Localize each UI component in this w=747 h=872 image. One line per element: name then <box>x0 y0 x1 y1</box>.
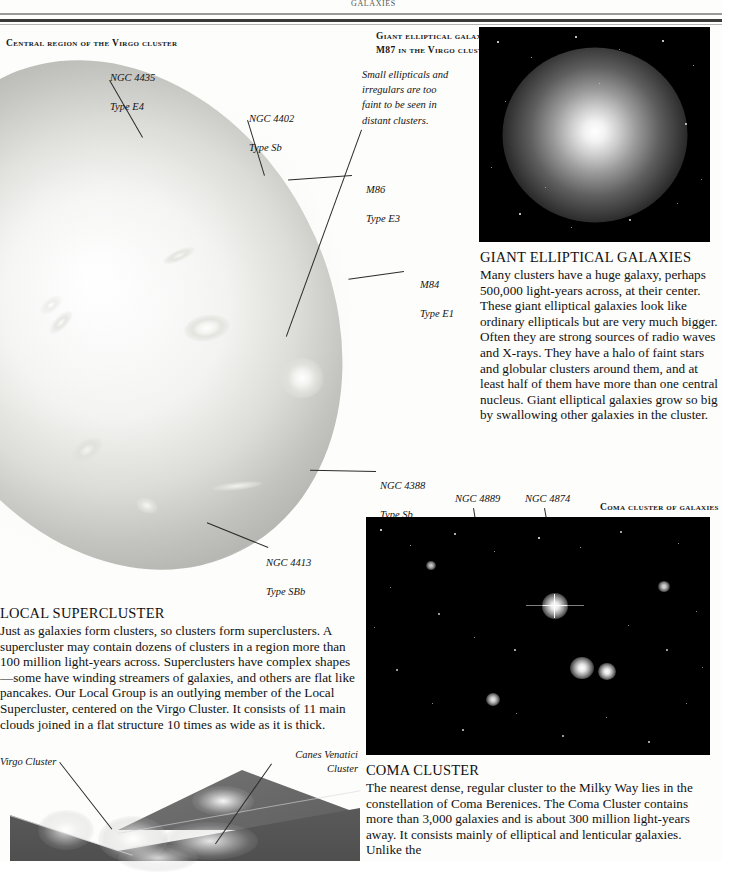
label-ngc4435: NGC 4435 Type E4 <box>110 57 155 114</box>
label-ngc4435-type: Type E4 <box>110 101 144 112</box>
local-supercluster-title: LOCAL SUPERCLUSTER <box>0 605 358 622</box>
giant-elliptical-title: GIANT ELLIPTICAL GALAXIES <box>480 249 720 266</box>
label-ngc4402-name: NGC 4402 <box>249 113 294 124</box>
virgo-plate-caption: Central region of the Virgo cluster <box>6 37 177 51</box>
cube-clump-low <box>118 844 198 872</box>
cube-clump-center <box>38 810 94 850</box>
label-m84-name: M84 <box>420 279 439 290</box>
label-m84-type: Type E1 <box>420 308 454 319</box>
m87-galaxy-glow <box>502 47 687 222</box>
m87-caption-line1: Giant elliptical galaxy <box>376 31 487 41</box>
coma-cluster-section: COMA CLUSTER The nearest dense, regular … <box>366 762 718 858</box>
label-ngc4874-name: NGC 4874 <box>525 493 570 504</box>
coma-photo <box>366 517 710 755</box>
label-ngc4388-name: NGC 4388 <box>380 480 425 491</box>
m87-plate-caption: Giant elliptical galaxy M87 in the Virgo… <box>376 29 493 58</box>
note-small-ellipticals: Small ellipticals and irregulars are too… <box>362 67 482 128</box>
virgo-cluster-plate <box>0 40 380 590</box>
header-rule-thick <box>0 19 740 22</box>
label-m86-type: Type E3 <box>366 213 400 224</box>
label-ngc4402-type: Type Sb <box>249 142 282 153</box>
galaxy-m84 <box>280 358 324 398</box>
label-ngc4388: NGC 4388 Type Sb <box>380 465 425 522</box>
supercluster-cube-diagram <box>10 770 360 861</box>
local-supercluster-section: LOCAL SUPERCLUSTER Just as galaxies form… <box>0 605 358 732</box>
label-ngc4889-name: NGC 4889 <box>455 493 500 504</box>
label-ngc4413-name: NGC 4413 <box>266 557 311 568</box>
coma-plate-caption: Coma cluster of galaxies <box>600 501 719 515</box>
label-ngc4435-name: NGC 4435 <box>110 72 155 83</box>
running-head: GALAXIES <box>0 0 747 8</box>
label-m84: M84 Type E1 <box>420 264 454 321</box>
label-virgo-cluster: Virgo Cluster <box>0 755 56 769</box>
label-m86-name: M86 <box>366 184 385 195</box>
m87-caption-line2: M87 in the Virgo cluster <box>376 45 493 55</box>
m87-photo <box>479 27 710 242</box>
local-supercluster-body: Just as galaxies form clusters, so clust… <box>0 623 358 732</box>
label-m86: M86 Type E3 <box>366 169 400 226</box>
label-ngc4402: NGC 4402 Type Sb <box>249 98 294 155</box>
header-rule-top <box>0 13 740 15</box>
header-rule-thin <box>0 24 740 25</box>
giant-elliptical-section: GIANT ELLIPTICAL GALAXIES Many clusters … <box>480 249 720 423</box>
right-margin-bleed <box>722 0 747 861</box>
label-ngc4413: NGC 4413 Type SBb <box>266 542 311 599</box>
coma-cluster-title: COMA CLUSTER <box>366 762 718 779</box>
coma-cluster-body: The nearest dense, regular cluster to th… <box>366 780 718 858</box>
label-ngc4413-type: Type SBb <box>266 586 305 597</box>
giant-elliptical-body: Many clusters have a huge galaxy, perhap… <box>480 267 720 423</box>
